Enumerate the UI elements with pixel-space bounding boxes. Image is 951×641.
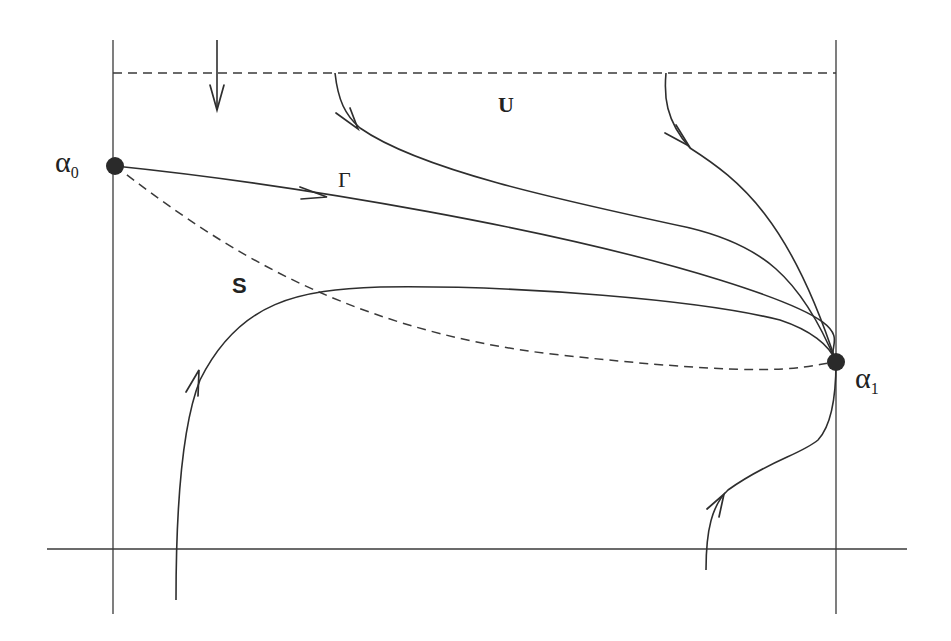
label-alpha1: α1 bbox=[855, 361, 879, 397]
trajectory-arrow-icon-3 bbox=[186, 370, 199, 396]
label-alpha0: α0 bbox=[55, 145, 79, 181]
label-unstable-u: U bbox=[498, 92, 514, 117]
trajectory-from-bottom-left bbox=[176, 287, 836, 600]
trajectory-from-top-2 bbox=[665, 73, 836, 362]
equilibrium-point-alpha1 bbox=[827, 353, 845, 371]
separatrix-curve-s bbox=[115, 166, 836, 370]
trajectory-from-bottom-right bbox=[706, 362, 836, 570]
label-stable-s: S bbox=[232, 273, 247, 298]
label-gamma: Γ bbox=[338, 167, 351, 192]
equilibrium-point-alpha0 bbox=[106, 157, 124, 175]
trajectory-from-top-1 bbox=[335, 73, 836, 362]
trajectory-arrow-icon-1 bbox=[336, 108, 358, 129]
phase-portrait-diagram: α0 α1 Γ U S bbox=[0, 0, 951, 641]
gamma-trajectory bbox=[115, 166, 836, 362]
